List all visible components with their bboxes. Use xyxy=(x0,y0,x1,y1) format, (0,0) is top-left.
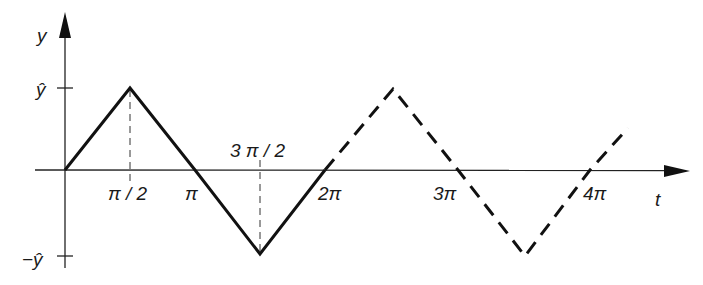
ytick-label-yhat: ŷ xyxy=(34,79,47,100)
triangle-wave-diagram: y t ŷ −ŷ π / 2 π 3 π / 2 2π 3π 4π xyxy=(0,0,703,285)
x-axis xyxy=(35,170,672,171)
xtick-label-4pi: 4π xyxy=(583,183,608,204)
xtick-label-2pi: 2π xyxy=(317,183,343,204)
xtick-label-pi-half: π / 2 xyxy=(108,183,148,204)
x-axis-label: t xyxy=(655,189,661,210)
axes xyxy=(35,12,690,268)
y-axis-arrow-icon xyxy=(59,12,71,38)
x-axis-arrow-icon xyxy=(664,165,690,177)
xtick-label-pi: π xyxy=(185,183,199,204)
xtick-label-3pi: 3π xyxy=(433,183,458,204)
solid-wave xyxy=(65,88,325,254)
xtick-label-3pi-half: 3 π / 2 xyxy=(230,140,285,161)
ytick-label-neg-yhat: −ŷ xyxy=(22,249,44,270)
y-axis-label: y xyxy=(35,25,48,46)
dashed-wave xyxy=(325,89,628,256)
